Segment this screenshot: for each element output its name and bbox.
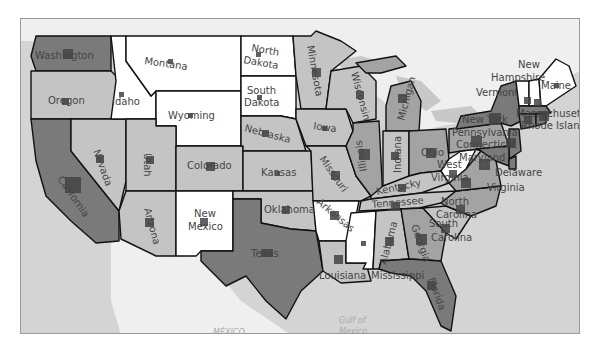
label-oregon: Oregon [48,95,85,106]
label-delaware: Delaware [495,167,542,178]
label-new-mexico-2: Mexico [188,221,223,232]
label-vermont: Vermont [476,87,518,98]
marker-new-hampshire [534,99,541,106]
label-gulf-2: Mexico [339,327,367,334]
label-virginia: Virginia [487,182,525,193]
label-massachusetts: Massachusetts [516,108,580,119]
us-states-map: Washington Oregon California Nevada Idah… [21,19,580,334]
label-new-hampshire-2: Hampshire [491,72,545,83]
label-oklahoma: Oklahoma [264,204,315,215]
label-ohio: Ohio [421,147,444,158]
label-mississippi: Mississippi [371,270,424,281]
label-maryland: Maryland [459,152,505,163]
label-new-mexico-1: New [194,208,216,219]
label-louisiana: Louisiana [319,270,366,281]
label-kansas: Kansas [261,167,296,178]
label-utah: Utah [142,153,153,177]
label-idaho: Idaho [112,96,140,107]
label-west-virginia-1: West [437,159,462,170]
label-south-dakota-1: South [247,85,276,96]
label-south-carolina-2: Carolina [431,232,472,243]
label-north-carolina-1: North [441,196,469,207]
marker-vermont [524,97,531,104]
label-connecticut: Connecticut [456,139,516,150]
label-colorado: Colorado [187,160,232,171]
label-pennsylvania: Pennsylvania [452,127,518,138]
label-north-carolina-2: Carolina [436,209,477,220]
label-rhode-island: Rhode Island [521,120,580,131]
label-west-virginia-2: Virginia [431,172,469,183]
label-wyoming: Wyoming [168,110,215,121]
marker-louisiana [334,255,343,264]
label-mexico-country: MÉXICO [213,326,245,334]
label-gulf-1: Gulf of [339,316,367,325]
label-indiana: Indiana [392,136,403,173]
label-new-hampshire-1: New [518,59,540,70]
map-frame: Washington Oregon California Nevada Idah… [20,18,580,334]
label-new-york: New York [462,114,508,125]
label-south-dakota-2: Dakota [244,97,279,108]
marker-mississippi [361,241,366,246]
label-maine: Maine [541,80,571,91]
label-washington: Washington [35,50,94,61]
label-texas: Texas [250,248,279,259]
